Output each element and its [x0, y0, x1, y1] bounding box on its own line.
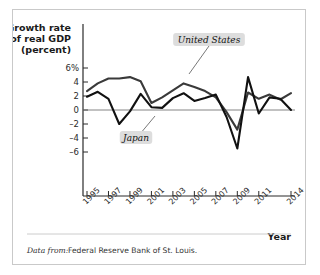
series-callouts: United StatesJapan	[120, 33, 245, 144]
y-tick-label: –4	[69, 133, 79, 143]
y-tick-label: 0	[74, 105, 79, 115]
y-tick-label: 6%	[66, 63, 80, 73]
y-axis-title-line2: of real GDP	[13, 33, 71, 44]
gdp-growth-line-chart: Growth rate of real GDP (percent) Year 6…	[13, 10, 305, 264]
y-tick-label: –6	[69, 147, 79, 157]
y-tick-label: 4	[74, 77, 79, 87]
y-axis-title-line3: (percent)	[21, 44, 71, 55]
japan-callout-label: Japan	[121, 133, 149, 143]
united-states-callout-label: United States	[178, 35, 241, 45]
x-axis-title: Year	[266, 231, 291, 242]
series-lines	[87, 77, 291, 148]
series-line-japan	[87, 77, 291, 148]
y-tick-label: 2	[74, 91, 79, 101]
united-states-leader-line	[189, 46, 209, 74]
y-tick-label: –2	[69, 119, 79, 129]
figure-panel: Growth rate of real GDP (percent) Year 6…	[12, 9, 306, 265]
y-axis-title-line1: Growth rate	[13, 22, 71, 33]
